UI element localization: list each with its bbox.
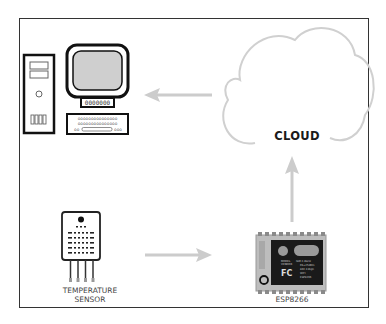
monitor-icon: 0000000 — [67, 45, 128, 107]
cloud-label: CLOUD — [262, 129, 332, 143]
svg-text:0000000: 0000000 — [85, 99, 111, 106]
svg-text:FC: FC — [281, 269, 292, 278]
svg-text:ooooooooooooooo: ooooooooooooooo — [78, 121, 118, 126]
svg-text:ISM 2.4GHz: ISM 2.4GHz — [296, 260, 312, 263]
arrow-esp-to-cloud — [285, 156, 299, 222]
svg-text:oo: oo — [74, 127, 80, 132]
svg-text:WIFI: WIFI — [300, 272, 306, 275]
desktop-tower-icon — [24, 55, 54, 133]
sensor-label-line1: TEMPERATURE — [40, 286, 140, 295]
cloud-icon — [223, 28, 374, 144]
keyboard-icon: ooooooooooooooo ooooooooooooooo oo ooo — [67, 114, 128, 134]
esp8266-label: ESP8266 — [252, 295, 332, 304]
temperature-sensor-icon — [62, 212, 100, 282]
svg-text:PA+25dBm: PA+25dBm — [300, 264, 315, 267]
diagram-canvas: 0000000 ooooooooooooooo ooooooooooooooo … — [0, 0, 386, 324]
arrow-cloud-to-computer — [144, 88, 212, 102]
svg-text:ESP8266: ESP8266 — [300, 276, 312, 279]
temperature-sensor-label: TEMPERATURE SENSOR — [40, 286, 140, 304]
svg-text:802.11bgn: 802.11bgn — [300, 268, 314, 271]
svg-text:VENDOR: VENDOR — [281, 263, 292, 266]
sensor-label-line2: SENSOR — [40, 295, 140, 304]
esp8266-chip-icon: MODEL VENDOR ISM 2.4GHz PA+25dBm 802.11b… — [256, 232, 326, 294]
arrow-sensor-to-esp — [145, 248, 212, 262]
svg-text:ooo: ooo — [114, 127, 122, 132]
